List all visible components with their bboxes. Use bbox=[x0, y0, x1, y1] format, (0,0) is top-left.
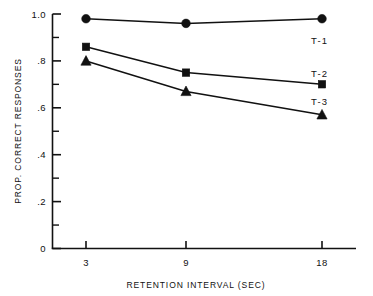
series-label-t2: T-2 bbox=[311, 68, 328, 79]
y-tick-label-1.0: 1.0 bbox=[32, 9, 46, 20]
y-axis-title: PROP. CORRECT RESPONSES bbox=[13, 58, 23, 204]
x-axis-ticks bbox=[86, 241, 322, 249]
x-tick-label-3: 3 bbox=[83, 257, 89, 268]
x-axis-title: RETENTION INTERVAL (SEC) bbox=[126, 280, 265, 290]
chart-figure: 1.0 .8 .6 .4 .2 0 3 9 18 bbox=[0, 0, 373, 296]
line-chart: 1.0 .8 .6 .4 .2 0 3 9 18 bbox=[0, 0, 373, 296]
x-tick-label-18: 18 bbox=[316, 257, 327, 268]
y-axis-minor-ticks bbox=[53, 37, 60, 225]
series-line-t1 bbox=[86, 19, 322, 24]
series-line-t3 bbox=[86, 61, 322, 115]
y-tick-label-0.8: .8 bbox=[37, 55, 46, 66]
series-line-t2 bbox=[86, 47, 322, 85]
y-tick-label-0.4: .4 bbox=[37, 149, 46, 160]
y-tick-label-0: 0 bbox=[40, 243, 46, 254]
series-markers-t1 bbox=[82, 14, 327, 27]
x-tick-label-9: 9 bbox=[183, 257, 189, 268]
series-label-t3: T-3 bbox=[311, 96, 328, 107]
y-tick-label-0.6: .6 bbox=[37, 102, 46, 113]
y-tick-label-0.2: .2 bbox=[37, 196, 46, 207]
series-label-t1: T-1 bbox=[311, 35, 328, 46]
